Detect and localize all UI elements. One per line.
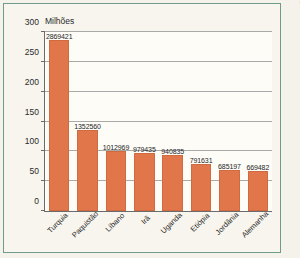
chart-figure: Milhões 050100150200250300 2869421Turqui… [0, 0, 300, 258]
bar-value-label: 685197 [218, 163, 241, 170]
bar[interactable]: 791631 [191, 164, 211, 211]
y-tick-label: 250 [25, 47, 39, 57]
plot-area: 050100150200250300 2869421Turquia1352560… [44, 32, 272, 212]
bar[interactable]: 979435 [134, 153, 154, 211]
x-axis-category-label: Irã [140, 214, 153, 227]
x-axis-category-label: Líbano [104, 211, 127, 234]
x-axis-category-label: Jordânia [214, 210, 241, 237]
bar[interactable]: 2869421 [49, 40, 69, 211]
bar-value-label: 669482 [246, 164, 269, 171]
bar-value-label: 2869421 [46, 33, 73, 40]
bar-value-label: 1352560 [74, 123, 101, 130]
y-tick-label: 200 [25, 77, 39, 87]
bar[interactable]: 940835 [162, 155, 182, 211]
bar-value-label: 791631 [190, 157, 213, 164]
bar-value-label: 940835 [161, 148, 184, 155]
bar-slot[interactable]: 669482Alemanha [244, 32, 272, 211]
bar-value-label: 979435 [133, 146, 156, 153]
bar-slot[interactable]: 791631Etiópia [187, 32, 215, 211]
y-tick-label: 0 [34, 196, 39, 206]
x-axis-category-label: Alemanha [240, 209, 270, 239]
bar[interactable]: 1012969 [106, 151, 126, 211]
chart-panel: Milhões 050100150200250300 2869421Turqui… [3, 3, 281, 253]
bar-slot[interactable]: 685197Jordânia [215, 32, 243, 211]
bar-slot[interactable]: 1352560Paquistão [73, 32, 101, 211]
bar-slot[interactable]: 940835Uganda [159, 32, 187, 211]
bar-value-label: 1012969 [103, 144, 130, 151]
y-tick-label: 100 [25, 136, 39, 146]
bar-slot[interactable]: 979435Irã [130, 32, 158, 211]
x-axis-category-label: Turquia [46, 211, 70, 235]
x-axis-category-label: Etiópia [189, 211, 212, 234]
bar[interactable]: 1352560 [77, 130, 97, 211]
y-tick-label: 50 [30, 166, 39, 176]
y-axis-title: Milhões [45, 16, 74, 26]
y-tick-label: 300 [25, 17, 39, 27]
bar-series: 2869421Turquia1352560Paquistão1012969Líb… [45, 32, 272, 211]
x-axis-category-label: Uganda [159, 211, 184, 236]
bar-slot[interactable]: 2869421Turquia [45, 32, 73, 211]
bar-slot[interactable]: 1012969Líbano [102, 32, 130, 211]
bar[interactable]: 669482 [248, 171, 268, 211]
x-axis-category-label: Paquistão [70, 209, 100, 239]
image-credit: Banco de imagens/Arquivo da editora [299, 0, 300, 4]
bar[interactable]: 685197 [219, 170, 239, 211]
y-tick-label: 150 [25, 107, 39, 117]
